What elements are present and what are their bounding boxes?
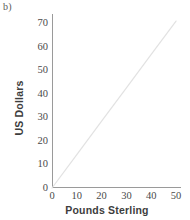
- panel-letter: b): [3, 1, 12, 12]
- data-series-layer: [52, 14, 181, 188]
- x-axis-title: Pounds Sterling: [0, 204, 190, 216]
- y-tick-label: 50: [22, 65, 48, 75]
- chart-figure: b) US Dollars Pounds Sterling 0102030405…: [0, 0, 190, 220]
- x-tick-label: 40: [138, 191, 164, 201]
- y-tick-label: 20: [22, 136, 48, 146]
- x-tick-label: 10: [64, 191, 90, 201]
- y-axis-tick-labels: 010203040506070: [20, 14, 48, 188]
- x-tick-label: 30: [113, 191, 139, 201]
- y-tick-label: 40: [22, 89, 48, 99]
- x-axis-tick-labels: 01020304050: [52, 191, 187, 205]
- y-tick-label: 70: [22, 18, 48, 28]
- series-line-exchange-rate: [52, 21, 176, 188]
- y-tick-label: 30: [22, 112, 48, 122]
- y-tick-label: 60: [22, 42, 48, 52]
- plot-area: [52, 14, 181, 188]
- x-tick-label: 0: [39, 191, 65, 201]
- x-tick-label: 50: [163, 191, 189, 201]
- y-tick-label: 10: [22, 159, 48, 169]
- x-tick-label: 20: [89, 191, 115, 201]
